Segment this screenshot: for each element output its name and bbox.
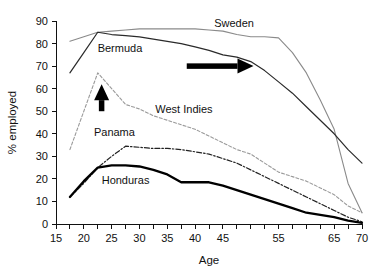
y-tick-label: 70 <box>36 60 48 72</box>
y-tick-label: 90 <box>36 15 48 27</box>
x-tick-label: 40 <box>189 232 201 244</box>
x-tick-label: 70 <box>356 232 368 244</box>
series-label-honduras: Honduras <box>102 174 150 186</box>
series-label-bermuda: Bermuda <box>98 42 144 54</box>
x-tick-label: 20 <box>78 232 90 244</box>
series-label-panama: Panama <box>94 126 136 138</box>
x-tick-label: 15 <box>50 232 62 244</box>
series-label-sweden: Sweden <box>214 17 254 29</box>
y-tick-label: 10 <box>36 195 48 207</box>
x-tick-label: 65 <box>328 232 340 244</box>
x-axis-ticks-group: 15202530354045556570 <box>50 224 368 244</box>
chart-canvas: SwedenBermudaWest IndiesPanamaHonduras 0… <box>0 0 375 272</box>
x-tick-label: 25 <box>106 232 118 244</box>
x-tick-label: 45 <box>217 232 229 244</box>
x-tick-label: 35 <box>161 232 173 244</box>
rightward-trend-arrow-head <box>238 59 254 74</box>
series-line-west-indies <box>70 73 362 213</box>
y-tick-label: 60 <box>36 83 48 95</box>
y-tick-label: 30 <box>36 150 48 162</box>
x-axis-title: Age <box>199 254 219 266</box>
series-label-west-indies: West Indies <box>155 103 213 115</box>
x-tick-label: 30 <box>133 232 145 244</box>
y-axis-ticks-group: 0102030405060708090 <box>36 15 56 230</box>
y-axis-title: % employed <box>6 91 18 154</box>
employment-by-age-chart: SwedenBermudaWest IndiesPanamaHonduras 0… <box>0 0 375 272</box>
upward-trend-arrow-shaft <box>99 100 105 111</box>
y-tick-label: 0 <box>42 218 48 230</box>
y-tick-label: 20 <box>36 173 48 185</box>
y-tick-label: 40 <box>36 128 48 140</box>
x-tick-label: 55 <box>272 232 284 244</box>
y-tick-label: 80 <box>36 38 48 50</box>
rightward-trend-arrow-shaft <box>187 63 238 69</box>
y-tick-label: 50 <box>36 105 48 117</box>
upward-trend-arrow-head <box>94 84 109 100</box>
